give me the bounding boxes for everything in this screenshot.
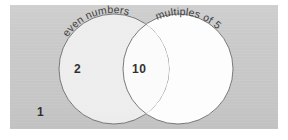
region-value-left-only: 2 [74,63,81,75]
venn-diagram-screenshot: even numbers multiples of 5 2 10 1 [0,0,288,140]
region-value-outside: 1 [37,106,44,118]
region-value-intersection: 10 [132,63,146,75]
